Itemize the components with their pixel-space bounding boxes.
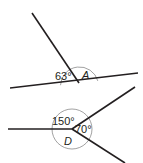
angle-label-d: D — [64, 135, 72, 147]
angle-label-63: 63° — [55, 70, 72, 82]
angle-label-a: A — [81, 69, 89, 81]
angle-diagrams: 63° A 150° 70° D — [0, 0, 143, 163]
angle-label-150: 150° — [52, 115, 75, 127]
angle-label-70: 70° — [75, 123, 92, 135]
figure-d: 150° 70° D — [8, 87, 135, 163]
figure-a: 63° A — [10, 13, 138, 88]
